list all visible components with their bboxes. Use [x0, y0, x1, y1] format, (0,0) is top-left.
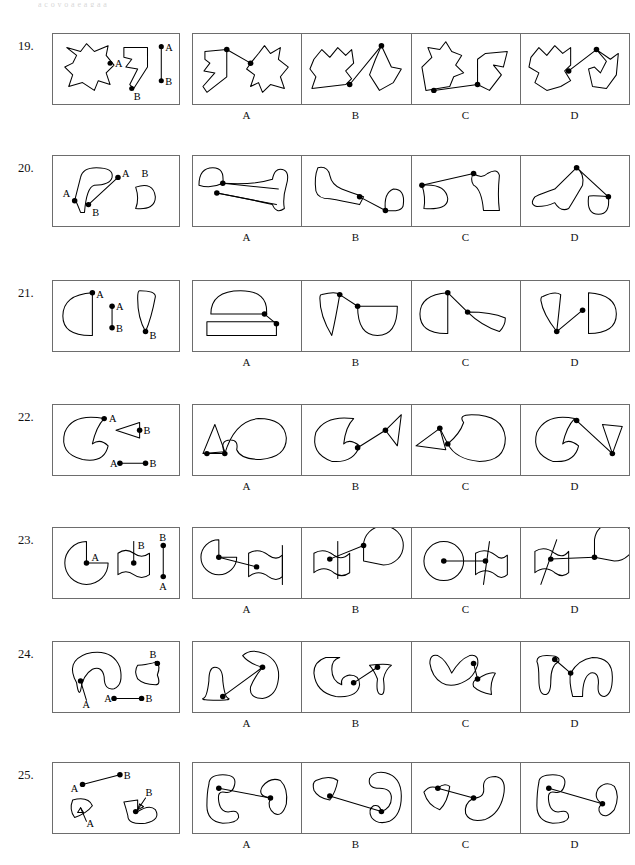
option-label-24-D: D	[520, 717, 629, 729]
option-label-20-A: A	[192, 231, 301, 243]
option-label-21-A: A	[192, 356, 301, 368]
svg-text:A: A	[110, 458, 118, 469]
option-panel-24-B[interactable]	[301, 641, 410, 713]
svg-text:A: A	[91, 552, 99, 563]
svg-text:B: B	[144, 425, 151, 436]
question-number-20: 20.	[18, 161, 34, 176]
option-label-20-D: D	[520, 231, 629, 243]
option-panel-19-C[interactable]	[411, 33, 520, 105]
option-panel-20-B[interactable]	[301, 155, 410, 227]
option-label-19-A: A	[192, 109, 301, 121]
worksheet-page: a c o y o a e a g a a 19. A B A B	[0, 0, 635, 865]
question-number-23: 23.	[18, 533, 34, 548]
svg-text:B: B	[134, 91, 141, 102]
cut-off-header-text: a c o y o a e a g a a	[38, 0, 107, 7]
option-panel-20-C[interactable]	[411, 155, 520, 227]
option-label-19-C: C	[411, 109, 520, 121]
option-panel-24-D[interactable]	[520, 641, 630, 713]
svg-text:A: A	[109, 414, 117, 425]
option-label-19-D: D	[520, 109, 629, 121]
svg-text:B: B	[159, 532, 166, 543]
svg-text:A: A	[159, 581, 167, 592]
option-panel-24-A[interactable]	[192, 641, 301, 713]
prompt-panel-20[interactable]: A B A B	[52, 155, 180, 227]
svg-text:B: B	[149, 458, 156, 469]
option-panel-25-B[interactable]	[301, 762, 410, 834]
option-label-20-C: C	[411, 231, 520, 243]
option-panel-23-C[interactable]	[411, 527, 520, 599]
option-panel-20-D[interactable]	[520, 155, 630, 227]
option-panel-25-A[interactable]	[192, 762, 301, 834]
option-panel-24-C[interactable]	[411, 641, 520, 713]
option-label-25-C: C	[411, 838, 520, 850]
option-label-19-B: B	[301, 109, 410, 121]
question-number-19: 19.	[18, 39, 34, 54]
option-label-24-A: A	[192, 717, 301, 729]
option-label-22-D: D	[520, 480, 629, 492]
option-label-20-B: B	[301, 231, 410, 243]
option-panel-19-B[interactable]	[301, 33, 410, 105]
prompt-panel-21[interactable]: A A B B	[52, 280, 180, 352]
question-number-21: 21.	[18, 286, 34, 301]
options-row-22	[192, 404, 630, 476]
option-panel-25-D[interactable]	[520, 762, 630, 834]
svg-text:B: B	[138, 540, 145, 551]
option-label-22-C: C	[411, 480, 520, 492]
option-panel-20-A[interactable]	[192, 155, 301, 227]
svg-text:B: B	[116, 323, 123, 334]
option-panel-21-C[interactable]	[411, 280, 520, 352]
option-label-23-C: C	[411, 603, 520, 615]
option-panel-21-D[interactable]	[520, 280, 630, 352]
option-panel-22-A[interactable]	[192, 404, 301, 476]
option-panel-21-B[interactable]	[301, 280, 410, 352]
prompt-panel-24[interactable]: A B A B	[52, 641, 180, 713]
option-label-22-B: B	[301, 480, 410, 492]
option-panel-23-B[interactable]	[301, 527, 410, 599]
svg-text:B: B	[92, 207, 99, 218]
prompt-panel-22[interactable]: A B A B	[52, 404, 180, 476]
option-panel-25-C[interactable]	[411, 762, 520, 834]
option-label-25-D: D	[520, 838, 629, 850]
option-label-21-D: D	[520, 356, 629, 368]
options-row-20	[192, 155, 630, 227]
svg-text:A: A	[104, 693, 112, 704]
option-label-23-D: D	[520, 603, 629, 615]
option-panel-19-A[interactable]	[192, 33, 301, 105]
option-panel-23-A[interactable]	[192, 527, 301, 599]
svg-text:B: B	[149, 649, 156, 660]
option-panel-22-C[interactable]	[411, 404, 520, 476]
option-label-21-B: B	[301, 356, 410, 368]
option-label-24-B: B	[301, 717, 410, 729]
question-number-22: 22.	[18, 410, 34, 425]
svg-text:A: A	[165, 42, 173, 53]
options-row-24	[192, 641, 630, 713]
options-row-19	[192, 33, 630, 105]
options-row-23	[192, 527, 630, 599]
prompt-panel-23[interactable]: A B B A	[52, 527, 180, 599]
option-label-23-A: A	[192, 603, 301, 615]
option-panel-19-D[interactable]	[520, 33, 630, 105]
svg-text:A: A	[86, 818, 94, 829]
svg-text:B: B	[146, 693, 153, 704]
option-label-21-C: C	[411, 356, 520, 368]
svg-text:A: A	[63, 188, 71, 199]
svg-text:A: A	[83, 699, 91, 710]
svg-text:B: B	[165, 76, 172, 87]
option-label-23-B: B	[301, 603, 410, 615]
option-label-22-A: A	[192, 480, 301, 492]
svg-text:B: B	[146, 787, 153, 798]
svg-text:B: B	[124, 770, 131, 781]
option-label-25-A: A	[192, 838, 301, 850]
option-panel-23-D[interactable]	[520, 527, 630, 599]
question-number-24: 24.	[18, 647, 34, 662]
svg-text:A: A	[115, 58, 123, 69]
svg-text:A: A	[96, 289, 104, 300]
svg-text:A: A	[71, 783, 79, 794]
option-panel-21-A[interactable]	[192, 280, 301, 352]
prompt-panel-19[interactable]: A B A B	[52, 33, 180, 105]
option-panel-22-B[interactable]	[301, 404, 410, 476]
svg-text:A: A	[116, 301, 124, 312]
option-panel-22-D[interactable]	[520, 404, 630, 476]
options-row-21	[192, 280, 630, 352]
prompt-panel-25[interactable]: A B A B	[52, 762, 180, 834]
